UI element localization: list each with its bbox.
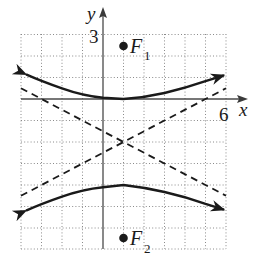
focus-f1-subscript: 1	[144, 48, 151, 63]
x-axis-label: x	[238, 99, 248, 120]
hyperbola-graph: y x 3 6 F 1 F 2	[0, 0, 256, 262]
focus-f2-point	[119, 234, 128, 243]
focus-f2-subscript: 2	[144, 241, 151, 256]
grid	[21, 34, 226, 249]
focus-f1-point	[119, 42, 128, 51]
x-tick-6: 6	[219, 104, 229, 125]
focus-f1-label: F	[129, 35, 143, 57]
y-tick-3: 3	[89, 26, 99, 47]
focus-f2-label: F	[129, 227, 143, 249]
upper-branch	[26, 74, 224, 99]
y-axis-label: y	[85, 3, 96, 24]
